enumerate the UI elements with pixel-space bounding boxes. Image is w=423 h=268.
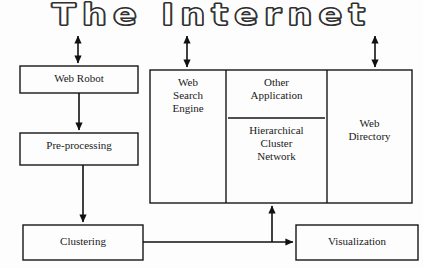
- box-web-robot: [20, 66, 138, 93]
- box-pre-processing: [20, 133, 138, 165]
- box-internet-services-group: [150, 70, 412, 203]
- web-mining-architecture-diagram: The Internet Web Robot Pre-proces: [0, 0, 423, 268]
- box-visualization: [296, 225, 418, 260]
- diagram-canvas: [0, 0, 423, 268]
- box-clustering: [23, 225, 143, 260]
